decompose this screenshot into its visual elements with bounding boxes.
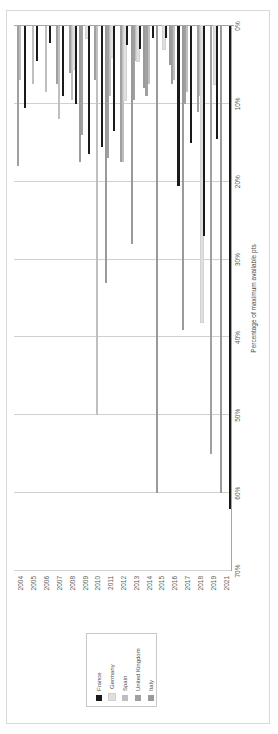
category-label-2021: 2021 <box>222 576 229 590</box>
bar-group-2015 <box>155 26 168 571</box>
bar-france-2016 <box>177 26 179 186</box>
legend-swatch-icon <box>96 695 102 701</box>
category-label-2017: 2017 <box>184 576 191 590</box>
bar-france-2008 <box>75 26 77 104</box>
bar-spain-2014 <box>148 26 150 84</box>
bar-france-2014 <box>152 26 154 38</box>
legend-swatch-icon <box>122 695 128 701</box>
legend-item-label: Italy <box>148 680 155 691</box>
bar-group-2013 <box>129 26 142 571</box>
category-label-2019: 2019 <box>209 576 216 590</box>
category-label-2007: 2007 <box>55 576 62 590</box>
value-tick-label: 50% <box>234 409 241 422</box>
plot-area <box>14 26 232 571</box>
category-label-2015: 2015 <box>158 576 165 590</box>
bar-italy-2021 <box>220 26 222 493</box>
legend-item-label: Spain <box>122 676 129 691</box>
bar-united-kingdom-2019 <box>210 26 212 454</box>
bar-france-2012 <box>126 26 128 45</box>
bar-group-2004 <box>14 26 27 571</box>
value-axis-title: Percentage of maximum available pts <box>250 26 257 571</box>
category-label-2014: 2014 <box>145 576 152 590</box>
bar-group-2008 <box>65 26 78 571</box>
value-tick-label: 70% <box>234 564 241 577</box>
bar-france-2018 <box>203 26 205 236</box>
category-label-2009: 2009 <box>81 576 88 590</box>
chart-rotation-host: FranceGermanySpainUnited KingdomItaly 0%… <box>0 0 278 734</box>
bar-france-2005 <box>36 26 38 61</box>
bar-group-2005 <box>27 26 40 571</box>
bar-group-2012 <box>117 26 130 571</box>
legend-item-france[interactable]: France <box>93 639 105 701</box>
bar-spain-2004 <box>19 26 21 81</box>
legend-swatch-icon <box>135 695 141 701</box>
legend-item-germany[interactable]: Germany <box>106 639 118 701</box>
category-label-2013: 2013 <box>132 576 139 590</box>
value-tick-label: 60% <box>234 487 241 500</box>
bar-france-2017 <box>190 26 192 143</box>
bar-france-2007 <box>62 26 64 96</box>
legend-item-label: France <box>96 672 103 691</box>
bar-italy-2015 <box>156 26 158 493</box>
bar-spain-2005 <box>32 26 34 84</box>
bar-group-2014 <box>142 26 155 571</box>
category-label-2006: 2006 <box>43 576 50 590</box>
bar-group-2007 <box>52 26 65 571</box>
bar-spain-2016 <box>173 26 175 81</box>
category-label-2005: 2005 <box>30 576 37 590</box>
category-label-2004: 2004 <box>17 576 24 590</box>
bar-group-2018 <box>194 26 207 571</box>
bar-group-2017 <box>181 26 194 571</box>
legend-item-label: Germany <box>109 664 116 689</box>
chart-legend: FranceGermanySpainUnited KingdomItaly <box>86 633 157 707</box>
category-label-2010: 2010 <box>94 576 101 590</box>
bar-france-2004 <box>24 26 26 108</box>
legend-swatch-icon <box>108 693 116 701</box>
legend-item-united-kingdom[interactable]: United Kingdom <box>132 639 144 701</box>
value-tick-label: 10% <box>234 97 241 110</box>
plot-wrapper: 0%10%20%30%40%50%60%70% Percentage of ma… <box>14 26 264 571</box>
value-tick-label: 40% <box>234 331 241 344</box>
bar-spain-2010 <box>96 26 98 415</box>
bar-group-2009 <box>78 26 91 571</box>
bar-united-kingdom-2009 <box>81 26 83 135</box>
bar-group-2006 <box>40 26 53 571</box>
bar-spain-2006 <box>45 26 47 92</box>
category-label-2012: 2012 <box>120 576 127 590</box>
bar-france-2021 <box>229 26 231 509</box>
legend-item-label: United Kingdom <box>135 648 142 691</box>
category-axis-labels: 2004200520062007200820092010201120122013… <box>14 574 232 614</box>
legend-swatch-icon <box>148 695 154 701</box>
legend-item-italy[interactable]: Italy <box>145 639 157 701</box>
category-label-2018: 2018 <box>196 576 203 590</box>
value-axis-tick-labels: 0%10%20%30%40%50%60%70% <box>234 26 250 571</box>
category-label-2016: 2016 <box>171 576 178 590</box>
bar-group-2021 <box>219 26 232 571</box>
bar-france-2006 <box>49 26 51 43</box>
category-label-2008: 2008 <box>68 576 75 590</box>
bar-spain-2007 <box>58 26 60 119</box>
bar-group-2019 <box>206 26 219 571</box>
category-label-2011: 2011 <box>107 576 114 590</box>
bar-france-2019 <box>216 26 218 139</box>
bar-france-2009 <box>88 26 90 154</box>
bar-france-2013 <box>139 26 141 49</box>
bar-spain-2017 <box>186 26 188 92</box>
value-tick-label: 0% <box>234 21 241 30</box>
bar-group-2011 <box>104 26 117 571</box>
legend-item-spain[interactable]: Spain <box>119 639 131 701</box>
bar-france-2011 <box>113 26 115 131</box>
bar-france-2015 <box>165 26 167 38</box>
value-tick-label: 30% <box>234 253 241 266</box>
value-tick-label: 20% <box>234 175 241 188</box>
bar-group-2010 <box>91 26 104 571</box>
bar-group-2016 <box>168 26 181 571</box>
bar-chart: FranceGermanySpainUnited KingdomItaly 0%… <box>0 0 278 734</box>
bar-france-2010 <box>101 26 103 147</box>
